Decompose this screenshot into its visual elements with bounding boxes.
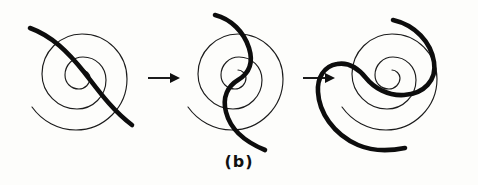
figure-caption: (b)	[0, 152, 478, 171]
thick-curve-panel-3	[318, 20, 435, 150]
spiral-thin-line-panel-1	[32, 34, 127, 130]
figure-container: (b)	[0, 0, 478, 185]
transition-arrow-1	[148, 73, 180, 83]
thick-curve-panel-1	[30, 28, 132, 125]
spiral-thin-line-panel-3	[342, 34, 437, 130]
panel-2	[188, 15, 283, 150]
arrow-head-1	[170, 73, 180, 83]
panel-3	[318, 20, 437, 150]
arrow-head-2	[325, 73, 335, 83]
panel-1	[30, 28, 132, 130]
